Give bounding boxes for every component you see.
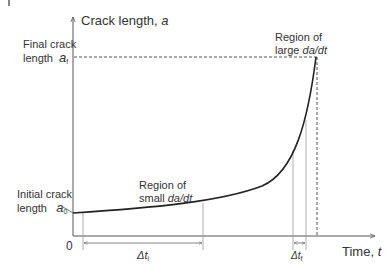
final-crack-length-word: length (23, 52, 53, 64)
initial-crack-length-word: length (17, 202, 47, 214)
region-small-label: Region of small da/dt (139, 179, 192, 205)
delta-tf-subscript: f (301, 255, 303, 262)
region-large-label: Region of large da/dt (275, 31, 327, 57)
initial-crack-label: Initial crack length a0 (17, 188, 72, 218)
region-large-rate: da/dt (303, 44, 327, 56)
final-crack-label: Final crack length af (23, 38, 76, 68)
final-crack-line1: Final crack (23, 38, 76, 51)
crack-growth-curve (73, 57, 316, 213)
final-crack-line2: length af (23, 51, 76, 68)
initial-crack-line2: length a0 (17, 201, 72, 218)
delta-ti-label: Δti (137, 249, 149, 265)
y-axis-label: Crack length, a (81, 13, 168, 28)
x-axis-label-text: Time, (342, 244, 378, 259)
origin-label: 0 (66, 240, 73, 253)
delta-ti-symbol: Δt (137, 249, 147, 261)
delta-tf-symbol: Δt (291, 250, 301, 261)
initial-crack-line1: Initial crack (17, 188, 72, 201)
region-small-line2: small da/dt (139, 192, 192, 205)
region-large-line1: Region of (275, 31, 327, 44)
y-axis-symbol: a (161, 13, 168, 28)
delta-ti-subscript: i (147, 255, 149, 262)
region-small-rate: da/dt (168, 192, 192, 204)
x-axis-symbol: t (378, 244, 382, 259)
initial-crack-subscript: 0 (63, 208, 67, 215)
y-axis-label-text: Crack length, (81, 13, 161, 28)
final-crack-subscript: f (66, 58, 68, 65)
x-axis-label: Time, t (342, 244, 381, 259)
region-large-line2: large da/dt (275, 44, 327, 57)
delta-tf-label: Δtf (291, 249, 302, 265)
region-large-prefix: large (275, 44, 303, 56)
region-small-prefix: small (139, 192, 168, 204)
region-small-line1: Region of (139, 179, 192, 192)
